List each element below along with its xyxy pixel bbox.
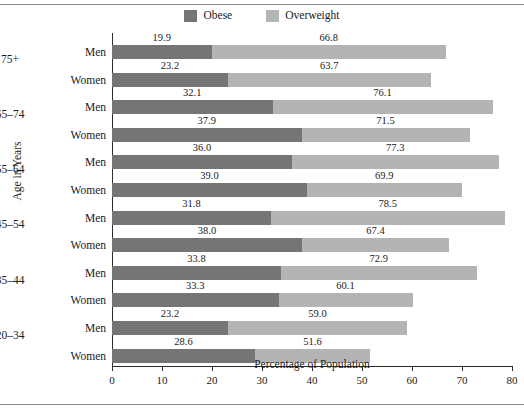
sex-label-men: Men (40, 321, 106, 335)
sex-label-women: Women (40, 183, 106, 197)
bar-segment-obese (112, 100, 273, 114)
bar-value-obese: 31.8 (182, 198, 200, 209)
top-divider-rule (0, 4, 524, 5)
sex-label-men: Men (40, 45, 106, 59)
x-axis-tick-label: 70 (457, 374, 468, 386)
bar-segment-obese (112, 128, 302, 142)
x-axis-tick-label: 80 (507, 374, 518, 386)
legend-item-obese: Obese (184, 10, 232, 22)
legend-swatch-overweight-icon (266, 10, 279, 22)
bar-value-obese: 23.2 (161, 308, 179, 319)
bar-value-obese: 32.1 (183, 87, 201, 98)
x-axis-tick-label: 10 (157, 374, 168, 386)
bar-value-obese: 37.9 (198, 115, 216, 126)
x-axis-tick-label: 50 (357, 374, 368, 386)
bar-value-overweight: 76.1 (373, 87, 391, 98)
bar-value-obese: 33.3 (186, 280, 204, 291)
bar-value-obese: 36.0 (193, 142, 211, 153)
legend-swatch-obese-icon (184, 10, 197, 22)
x-axis-tick-label: 60 (407, 374, 418, 386)
legend-item-overweight: Overweight (266, 10, 339, 22)
x-axis-tick (512, 366, 513, 371)
sex-label-women: Women (40, 293, 106, 307)
bar-segment-obese (112, 45, 212, 59)
bar-value-overweight: 63.7 (320, 60, 338, 71)
bar-value-overweight: 67.4 (366, 225, 384, 236)
bar-row: 33.360.1 (112, 293, 413, 307)
bar-value-obese: 19.9 (153, 32, 171, 43)
bar-segment-obese (112, 321, 228, 335)
sex-label-men: Men (40, 100, 106, 114)
x-axis-tick-label: 0 (109, 374, 115, 386)
bar-value-overweight: 51.6 (303, 336, 321, 347)
x-axis-tick-label: 30 (257, 374, 268, 386)
bar-value-overweight: 72.9 (370, 253, 388, 264)
chart-legend: ObeseOverweight (0, 10, 524, 22)
sex-label-men: Men (40, 211, 106, 225)
bar-segment-obese (112, 155, 292, 169)
bar-value-overweight: 59.0 (308, 308, 326, 319)
bar-segment-obese (112, 73, 228, 87)
legend-label: Obese (203, 10, 232, 22)
sex-label-women: Women (40, 238, 106, 252)
sex-label-women: Women (40, 73, 106, 87)
plot-area: 0102030405060708019.966.8Men75+23.263.7W… (112, 33, 512, 366)
age-group-label: 20–34 (0, 329, 32, 341)
bar-value-obese: 23.2 (161, 60, 179, 71)
bar-row: 23.259.0 (112, 321, 407, 335)
y-axis-title: Age in Years (11, 116, 23, 226)
x-axis-tick-label: 20 (207, 374, 218, 386)
bar-segment-obese (112, 266, 281, 280)
x-axis-title: Percentage of Population (112, 358, 512, 370)
bar-segment-obese (112, 238, 302, 252)
bar-segment-obese (112, 183, 307, 197)
bar-value-obese: 38.0 (198, 225, 216, 236)
bar-value-overweight: 60.1 (336, 280, 354, 291)
bar-row: 32.176.1 (112, 100, 493, 114)
bar-row: 38.067.4 (112, 238, 449, 252)
age-group-label: 75+ (0, 53, 32, 65)
bar-segment-obese (112, 211, 271, 225)
bar-value-overweight: 78.5 (379, 198, 397, 209)
bar-value-overweight: 69.9 (375, 170, 393, 181)
bar-row: 33.872.9 (112, 266, 477, 280)
sex-label-men: Men (40, 266, 106, 280)
sex-label-women: Women (40, 128, 106, 142)
bar-row: 23.263.7 (112, 73, 431, 87)
bar-value-overweight: 66.8 (320, 32, 338, 43)
legend-label: Overweight (285, 10, 339, 22)
bar-value-overweight: 77.3 (386, 142, 404, 153)
bar-value-obese: 33.8 (187, 253, 205, 264)
bar-value-overweight: 71.5 (376, 115, 394, 126)
x-axis-tick-label: 40 (307, 374, 318, 386)
bar-row: 19.966.8 (112, 45, 446, 59)
sex-label-men: Men (40, 155, 106, 169)
bar-row: 39.069.9 (112, 183, 462, 197)
bar-row: 37.971.5 (112, 128, 470, 142)
bar-segment-obese (112, 293, 279, 307)
bottom-divider-rule (0, 404, 524, 405)
bar-value-obese: 39.0 (200, 170, 218, 181)
bar-value-obese: 28.6 (174, 336, 192, 347)
sex-label-women: Women (40, 349, 106, 363)
age-group-label: 35–44 (0, 274, 32, 286)
bar-row: 31.878.5 (112, 211, 505, 225)
bar-row: 36.077.3 (112, 155, 499, 169)
